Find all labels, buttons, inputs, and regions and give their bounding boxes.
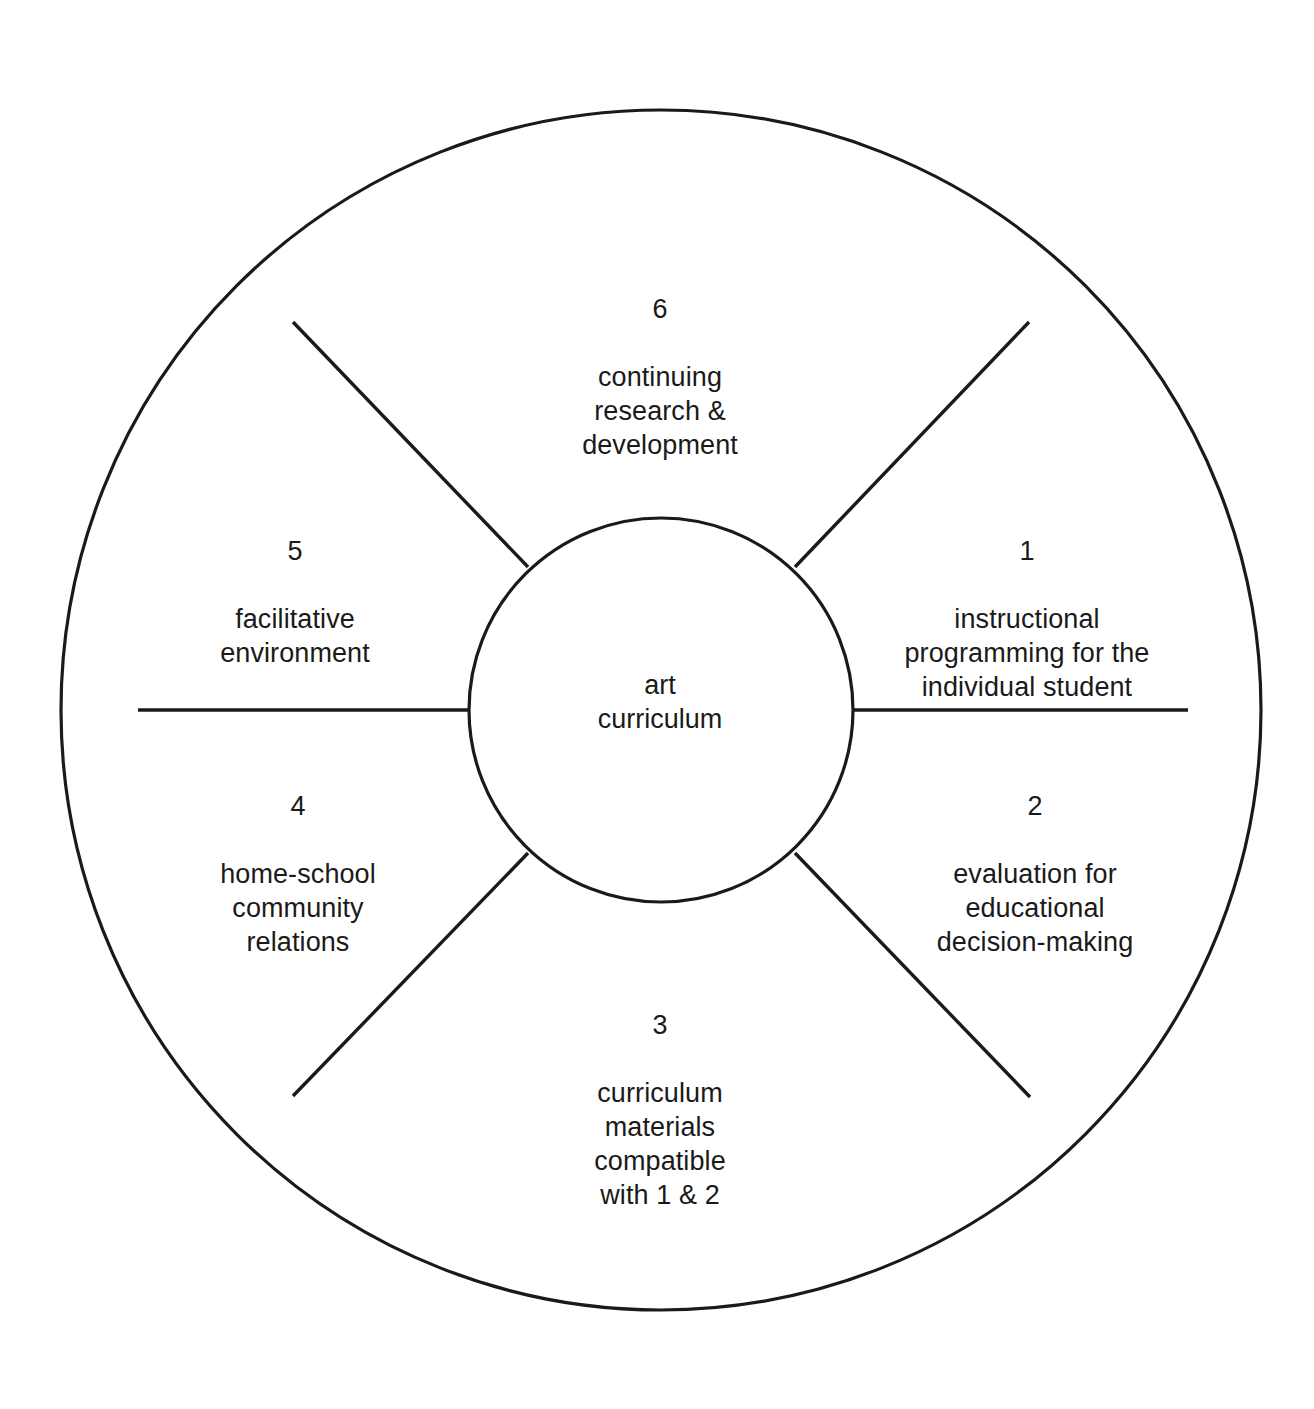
segment-text-1: instructional programming for the indivi…	[862, 602, 1192, 704]
segment-number-2: 2	[880, 789, 1190, 823]
segment-number-3: 3	[520, 1008, 800, 1042]
segment-number-5: 5	[145, 534, 445, 568]
segment-text-3: curriculum materials compatible with 1 &…	[520, 1076, 800, 1212]
segment-label-2: 2 evaluation for educational decision-ma…	[880, 755, 1190, 993]
diagram-canvas: 6 continuing research & development 1 in…	[0, 0, 1314, 1409]
segment-label-4: 4 home-school community relations	[148, 755, 448, 993]
center-hub-label: art curriculum	[560, 668, 760, 736]
segment-text-5: facilitative environment	[145, 602, 445, 670]
segment-text-4: home-school community relations	[148, 857, 448, 959]
segment-label-6: 6 continuing research & development	[460, 258, 860, 496]
segment-label-5: 5 facilitative environment	[145, 500, 445, 704]
segment-label-3: 3 curriculum materials compatible with 1…	[520, 974, 800, 1246]
segment-text-6: continuing research & development	[460, 360, 860, 462]
segment-number-4: 4	[148, 789, 448, 823]
segment-text-2: evaluation for educational decision-maki…	[880, 857, 1190, 959]
segment-label-1: 1 instructional programming for the indi…	[862, 500, 1192, 738]
segment-number-1: 1	[862, 534, 1192, 568]
segment-number-6: 6	[460, 292, 860, 326]
